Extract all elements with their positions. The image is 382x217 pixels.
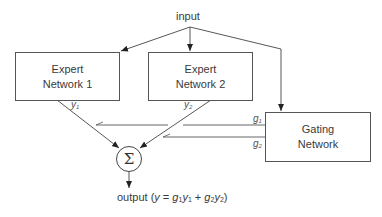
gating-network-line2: Network (298, 137, 338, 152)
edge-input-expert1 (121, 27, 190, 51)
expert-network-1-line1: Expert (52, 62, 84, 77)
summation-node: Σ (116, 146, 142, 172)
input-label: input (176, 10, 200, 22)
edge-expert1-sum (57, 100, 119, 148)
edge-expert2-sum (140, 100, 211, 148)
output-label: output (y = g1y1 + g2y2) (117, 191, 227, 203)
expert-network-2-line2: Network 2 (176, 77, 226, 92)
expert-network-2-box: Expert Network 2 (148, 52, 253, 101)
y1-label: y1 (71, 99, 79, 110)
expert-network-2-line1: Expert (185, 62, 217, 77)
g2-label: g2 (253, 138, 262, 149)
y2-label: y2 (184, 99, 192, 110)
g1-label: g1 (253, 113, 262, 124)
gating-network-line1: Gating (302, 122, 334, 137)
expert-network-1-line2: Network 1 (43, 77, 93, 92)
expert-network-1-box: Expert Network 1 (15, 52, 120, 101)
gating-network-box: Gating Network (265, 112, 371, 162)
